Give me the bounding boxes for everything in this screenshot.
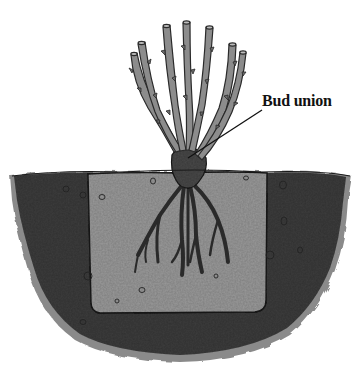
illustration: [0, 0, 361, 370]
canes: [129, 21, 246, 160]
rose-planting-diagram: Bud union: [0, 0, 361, 370]
bud-union-label: Bud union: [262, 92, 332, 110]
